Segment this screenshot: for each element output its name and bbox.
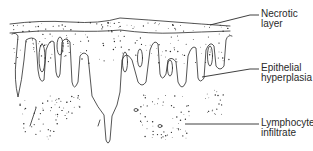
stipple-dot xyxy=(52,36,53,37)
stipple-dot xyxy=(104,60,105,61)
stipple-dot xyxy=(25,131,26,132)
stipple-dot xyxy=(159,23,160,24)
stipple-dot xyxy=(212,110,213,111)
stipple-dot xyxy=(185,131,186,132)
label-line: layer xyxy=(261,19,298,29)
stipple-dot xyxy=(41,55,42,56)
stipple-dot xyxy=(165,95,166,96)
stipple-dot xyxy=(162,51,163,52)
stipple-dot xyxy=(152,101,153,102)
stipple-dot xyxy=(53,26,54,27)
stipple-dot xyxy=(140,37,141,38)
stipple-dot xyxy=(143,105,144,106)
stipple-dot xyxy=(143,25,144,26)
stipple-dot xyxy=(44,45,45,46)
stipple-dot xyxy=(144,136,145,137)
stipple-dot xyxy=(107,25,108,26)
stipple-dot xyxy=(107,22,108,23)
stipple-dot xyxy=(208,97,209,98)
stipple-dot xyxy=(23,25,24,26)
stipple-dot xyxy=(71,96,72,97)
stipple-dot xyxy=(66,39,67,40)
stipple-dot xyxy=(38,26,39,27)
stipple-dot xyxy=(127,25,128,26)
stipple-dot xyxy=(110,23,111,24)
stipple-dot xyxy=(152,134,153,135)
stipple-dot xyxy=(50,96,51,97)
stipple-dot xyxy=(207,112,208,113)
stipple-dot xyxy=(158,62,159,63)
stipple-dot xyxy=(163,101,164,102)
stipple-dot xyxy=(218,58,219,59)
stipple-dot xyxy=(50,130,51,131)
stipple-dot xyxy=(103,45,104,46)
stipple-dot xyxy=(63,28,64,29)
stipple-dot xyxy=(171,132,172,133)
stipple-dot xyxy=(140,106,141,107)
stipple-dot xyxy=(50,57,51,58)
stipple-dot xyxy=(154,104,155,105)
stipple-dot xyxy=(14,63,15,64)
stipple-dot xyxy=(212,109,213,110)
stipple-dot xyxy=(181,112,182,113)
stipple-dot xyxy=(17,39,18,40)
stipple-dot xyxy=(55,100,56,101)
stipple-dot xyxy=(215,114,216,115)
stipple-dot xyxy=(33,47,34,48)
stipple-dot xyxy=(23,127,24,128)
stipple-dot xyxy=(150,45,151,46)
stipple-dot xyxy=(85,34,86,35)
stipple-dot xyxy=(38,118,39,119)
stipple-dot xyxy=(220,25,221,26)
stipple-dot xyxy=(209,27,210,28)
stipple-dot xyxy=(66,35,67,36)
stipple-dot xyxy=(81,58,82,59)
stipple-dot xyxy=(178,40,179,41)
stipple-dot xyxy=(118,36,119,37)
stipple-dot xyxy=(67,40,68,41)
stipple-dot xyxy=(141,44,142,45)
vessel xyxy=(98,120,100,126)
stipple-dot xyxy=(51,54,52,55)
stipple-dot xyxy=(33,44,34,45)
epithelial-outline xyxy=(12,33,232,143)
stipple-dot xyxy=(17,57,18,58)
ridge-loop xyxy=(158,125,162,128)
stipple-dot xyxy=(186,133,187,134)
stipple-dot xyxy=(204,26,205,27)
stipple-dot xyxy=(73,97,74,98)
stipple-dot xyxy=(174,47,175,48)
necrotic-layer-top xyxy=(10,18,230,26)
stipple-dot xyxy=(216,109,217,110)
stipple-dot xyxy=(145,97,146,98)
stipple-dot xyxy=(110,26,111,27)
stipple-dot xyxy=(34,113,35,114)
stipple-dot xyxy=(184,114,185,115)
stipple-dot xyxy=(65,26,66,27)
stipple-dot xyxy=(120,40,121,41)
stipple-dot xyxy=(161,55,162,56)
stipple-dot xyxy=(170,43,171,44)
stipple-dot xyxy=(172,25,173,26)
stipple-dot xyxy=(48,61,49,62)
stipple-dot xyxy=(214,90,215,91)
stipple-dot xyxy=(22,31,23,32)
stipple-dot xyxy=(187,105,188,106)
stipple-dot xyxy=(69,52,70,53)
stipple-dot xyxy=(113,38,114,39)
stipple-dot xyxy=(146,50,147,51)
stipple-dot xyxy=(207,24,208,25)
stipple-dot xyxy=(57,116,58,117)
stipple-dot xyxy=(64,56,65,57)
stipple-dot xyxy=(180,129,181,130)
stipple-dot xyxy=(62,45,63,46)
stipple-dot xyxy=(45,38,46,39)
stipple-dot xyxy=(210,51,211,52)
stipple-dot xyxy=(31,126,32,127)
stipple-dot xyxy=(24,100,25,101)
stipple-dot xyxy=(193,23,194,24)
stipple-dot xyxy=(158,44,159,45)
stipple-dot xyxy=(218,42,219,43)
stipple-dot xyxy=(50,42,51,43)
stipple-dot xyxy=(168,28,169,29)
